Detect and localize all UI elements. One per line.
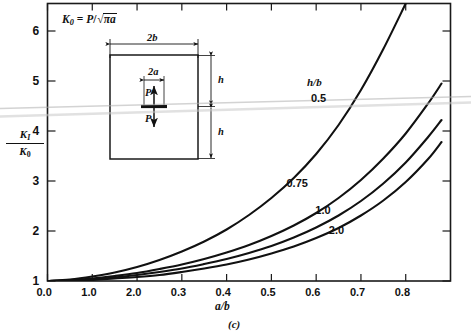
x-tick-label: 0.5 — [260, 287, 275, 298]
y-axis-ticks-right — [443, 31, 451, 281]
plot-frame — [48, 4, 451, 282]
curve-2.0 — [48, 142, 442, 281]
figure-container: K0 = P/√πa KI K0 a/b (c) h/b 2b 2a h h P… — [0, 0, 471, 334]
x-tick-label: 0.4 — [216, 287, 231, 298]
x-tick-label: 0.6 — [305, 287, 320, 298]
y-axis-ticks-left — [48, 31, 56, 281]
x-tick-label: 0.0 — [37, 287, 52, 298]
figure-caption: (c) — [228, 319, 240, 330]
x-tick-label: 2.0 — [126, 287, 141, 298]
x-tick-label: 0.8 — [395, 287, 410, 298]
x-tick-label: 1.0 — [81, 287, 96, 298]
formula-k0: K0 = P/√πa — [62, 13, 117, 27]
y-tick-label: 6 — [33, 25, 40, 37]
inset-width-label: 2b — [147, 33, 158, 44]
inset-height-label-top: h — [218, 75, 224, 86]
x-tick-label: 0.3 — [171, 287, 186, 298]
y-axis-title-denominator: K — [19, 145, 26, 157]
y-tick-label: 5 — [33, 75, 40, 87]
formula-radicand: πa — [103, 13, 117, 26]
y-tick-label: 3 — [33, 175, 40, 187]
inset-crack-label: 2a — [148, 67, 159, 78]
x-axis-title: a/b — [215, 301, 230, 313]
curve-label-0.75: 0.75 — [286, 178, 307, 189]
inset-load-label-top: P — [145, 88, 151, 99]
data-curves — [48, 4, 442, 282]
curve-label-1.0: 1.0 — [315, 205, 330, 216]
x-tick-label: 0.7 — [350, 287, 365, 298]
y-tick-label: 4 — [33, 125, 40, 137]
inset-load-label-bottom: P — [145, 114, 151, 125]
y-tick-label: 2 — [33, 225, 40, 237]
inset-height-dimensions — [198, 56, 215, 159]
y-tick-label: 1 — [33, 275, 40, 287]
curve-label-2.0: 2.0 — [329, 225, 344, 236]
y-axis-title-denominator-sub: 0 — [27, 149, 31, 158]
inset-diagram — [110, 39, 215, 159]
curve-label-0.5: 0.5 — [311, 93, 326, 104]
chart-canvas — [0, 0, 471, 334]
legend-title: h/b — [307, 77, 322, 88]
x-axis-ticks-top — [48, 4, 406, 11]
inset-height-label-bottom: h — [218, 127, 224, 138]
curve-0.5 — [48, 4, 406, 282]
formula-equals: = — [74, 13, 86, 25]
y-axis-title-numerator-sub: I — [27, 133, 30, 142]
scan-artifact-lines — [0, 97, 471, 117]
formula-k-symbol: K — [62, 13, 70, 25]
